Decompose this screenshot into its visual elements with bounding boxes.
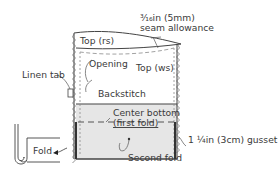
top-rs-label: Top (rs) bbox=[79, 35, 114, 46]
first-fold-label: (first fold) bbox=[113, 117, 158, 128]
top-ws-label: Top (ws) bbox=[135, 62, 174, 73]
gusset-label: 1 ¼in (3cm) gusset bbox=[188, 134, 278, 145]
linen-tab-label: Linen tab bbox=[22, 69, 65, 80]
fold-label: Fold bbox=[33, 145, 52, 156]
backstitch-arrow bbox=[86, 80, 92, 92]
linen-tab-icon bbox=[68, 89, 73, 97]
fold-arrow-icon bbox=[53, 148, 67, 155]
gusset-leader bbox=[179, 137, 186, 146]
fold-inset-icon bbox=[15, 124, 60, 164]
bag-sewing-diagram: ³⁄₁₆in (5mm) seam allowance Top (rs) Ope… bbox=[0, 0, 279, 172]
seam-allowance-label-2: seam allowance bbox=[140, 22, 214, 33]
opening-label: Opening bbox=[89, 58, 128, 69]
second-fold-label: Second fold bbox=[128, 152, 182, 163]
second-fold-dot bbox=[128, 138, 130, 140]
backstitch-label: Backstitch bbox=[98, 88, 146, 99]
